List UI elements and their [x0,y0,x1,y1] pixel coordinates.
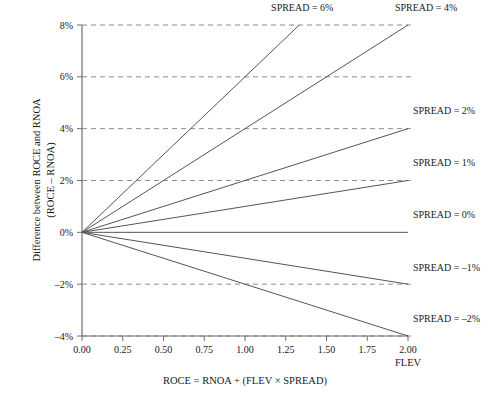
series-label-spread-6: SPREAD = 6% [271,2,333,13]
series-line-spread-1 [82,181,408,233]
x-tick-label-2.00: 2.00 [399,344,417,355]
gridlines-group [82,25,414,336]
series-label-spread-neg2: SPREAD = –2% [413,313,480,324]
x-axis-title: ROCE = RNOA + (FLEV × SPREAD) [163,375,328,387]
x-tick-label-0.25: 0.25 [114,344,132,355]
y-tick-label-6: 6% [60,71,73,82]
chart-figure: 8%6%4%2%0%–2%–4% 0.000.250.500.751.001.2… [0,0,497,406]
series-label-spread-1: SPREAD = 1% [413,157,475,168]
series-line-spread-neg1 [82,232,408,284]
series-label-spread-2: SPREAD = 2% [413,105,475,116]
x-tick-label-1.00: 1.00 [236,344,254,355]
y-tick-label-2: 2% [60,175,73,186]
x-tick-label-0.00: 0.00 [73,344,91,355]
series-label-spread-0: SPREAD = 0% [413,209,475,220]
x-tick-label-1.75: 1.75 [359,344,377,355]
y-tick-label-0: 0% [60,227,73,238]
x-tick-label-1.50: 1.50 [318,344,336,355]
y-tick-group: 8%6%4%2%0%–2%–4% [54,20,82,342]
x-tick-label-0.75: 0.75 [196,344,214,355]
y-tick-label--4: –4% [54,331,73,342]
x-tick-label-1.25: 1.25 [277,344,295,355]
y-axis-title-line2: (ROCE – RNOA) [45,142,57,218]
x-tick-label-0.50: 0.50 [155,344,173,355]
series-label-spread-4: SPREAD = 4% [395,2,457,13]
y-axis-title-line1: Difference between ROCE and RNOA [31,98,42,262]
spread-flev-line-chart: 8%6%4%2%0%–2%–4% 0.000.250.500.751.001.2… [0,0,497,406]
y-tick-label--2: –2% [54,279,73,290]
y-tick-label-4: 4% [60,123,73,134]
y-tick-label-8: 8% [60,20,73,31]
x-axis-unit-label: FLEV [395,357,422,368]
x-tick-group: 0.000.250.500.751.001.251.501.752.00 [73,336,417,355]
series-label-spread-neg1: SPREAD = –1% [413,262,480,273]
